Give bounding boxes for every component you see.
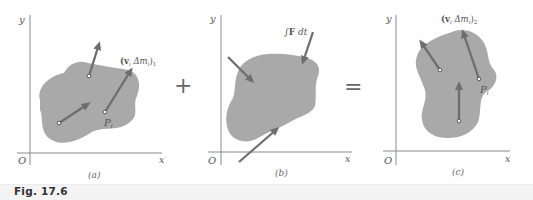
impulse-label-dt: dt: [295, 27, 308, 37]
point-a-pi: [103, 110, 107, 114]
y-axis-label-b: y: [209, 13, 216, 24]
vector-label-a-dm: Δm: [131, 56, 148, 66]
point-a-1: [87, 74, 91, 78]
origin-label-a: O: [18, 155, 26, 166]
y-axis-label-a: y: [18, 14, 25, 25]
panel-b: y x O ∫F dt (b): [208, 13, 352, 178]
rigid-body-blob-b: [226, 54, 319, 142]
vector-label-a: (vi Δmi)1: [120, 56, 156, 67]
equals-operator: =: [344, 74, 362, 99]
panel-label-b: (b): [275, 168, 288, 178]
panel-label-c: (c): [452, 167, 465, 177]
plus-operator: +: [174, 73, 192, 98]
point-label-c-sub: i: [487, 89, 489, 96]
point-label-a-sub: i: [111, 122, 113, 129]
x-axis-label-a: x: [159, 154, 165, 165]
origin-label-b: O: [208, 155, 216, 166]
point-c-pi: [477, 77, 481, 81]
x-axis-label-c: x: [505, 153, 511, 164]
point-a-2: [57, 121, 61, 125]
vector-label-c-index: 2: [474, 19, 478, 25]
panel-label-a: (a): [88, 170, 101, 180]
point-c-1: [438, 68, 442, 72]
x-axis-label-b: x: [345, 153, 351, 164]
vector-label-c-dm: Δm: [452, 14, 469, 24]
panel-c: y x O (vi Δmi)2 Pi (c): [383, 13, 511, 177]
momentum-impulse-diagram: y x O (vi Δmi)1 Pi (a) + y x O ∫F dt (b)…: [0, 0, 533, 200]
y-axis-label-c: y: [385, 13, 392, 24]
impulse-label-b: ∫F dt: [284, 27, 308, 37]
figure-caption: Fig. 17.6: [14, 185, 68, 197]
point-c-2: [457, 119, 461, 123]
vector-label-a-index: 1: [153, 61, 157, 67]
panel-a: y x O (vi Δmi)1 Pi (a): [17, 14, 165, 180]
origin-label-c: O: [384, 155, 392, 166]
vector-label-c: (vi Δmi)2: [441, 14, 477, 25]
